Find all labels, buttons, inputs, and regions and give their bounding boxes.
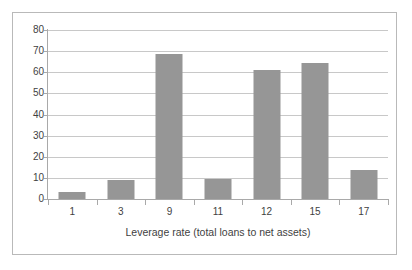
bar-slot (291, 30, 340, 199)
y-axis-tick-mark (44, 178, 48, 179)
x-axis-tick-mark (48, 200, 49, 205)
x-axis-tick-mark (145, 200, 146, 205)
bar (59, 192, 86, 199)
x-axis-tick-label: 17 (339, 206, 388, 218)
y-axis-tick-label: 20 (16, 152, 44, 162)
y-axis-tick-mark (44, 136, 48, 137)
y-axis-tick-label: 40 (16, 110, 44, 120)
plot-area (48, 30, 388, 199)
y-axis-tick-labels: 01020304050607080 (10, 0, 44, 270)
x-axis-tick-label: 9 (145, 206, 194, 218)
bar (302, 63, 329, 199)
bar (253, 70, 280, 199)
y-axis-tick-mark (44, 115, 48, 116)
bar-slot (194, 30, 243, 199)
x-axis-tick-mark (291, 200, 292, 205)
x-axis-tick-label: 3 (97, 206, 146, 218)
bar (204, 179, 231, 199)
y-axis-tick-label: 50 (16, 88, 44, 98)
x-axis-tick-mark (242, 200, 243, 205)
bar-slot (339, 30, 388, 199)
bar-slot (48, 30, 97, 199)
x-axis-title: Leverage rate (total loans to net assets… (48, 226, 388, 239)
y-axis-tick-mark (44, 30, 48, 31)
y-axis-tick-mark (44, 199, 48, 200)
bar-slot (242, 30, 291, 199)
bar-slot (145, 30, 194, 199)
x-axis-tick-mark (194, 200, 195, 205)
y-axis-tick-label: 70 (16, 46, 44, 56)
bar (350, 170, 377, 199)
y-axis-tick-label: 60 (16, 67, 44, 77)
x-axis-tick-mark (388, 200, 389, 205)
gridline (48, 199, 388, 200)
x-axis-tick-mark (97, 200, 98, 205)
y-axis-tick-mark (44, 51, 48, 52)
bar-slot (97, 30, 146, 199)
y-axis-tick-label: 80 (16, 25, 44, 35)
y-axis-tick-mark (44, 72, 48, 73)
x-axis-tick-label: 12 (242, 206, 291, 218)
bar (107, 180, 134, 199)
y-axis-tick-label: 30 (16, 131, 44, 141)
y-axis-tick-label: 0 (16, 194, 44, 204)
x-axis-tick-label: 1 (48, 206, 97, 218)
x-axis-tick-label: 11 (194, 206, 243, 218)
chart-figure: 01020304050607080 13911121517 Leverage r… (0, 0, 412, 270)
x-axis-tick-label: 15 (291, 206, 340, 218)
y-axis-tick-mark (44, 93, 48, 94)
x-axis-tick-mark (339, 200, 340, 205)
bar (156, 54, 183, 199)
y-axis-tick-mark (44, 157, 48, 158)
y-axis-tick-label: 10 (16, 173, 44, 183)
